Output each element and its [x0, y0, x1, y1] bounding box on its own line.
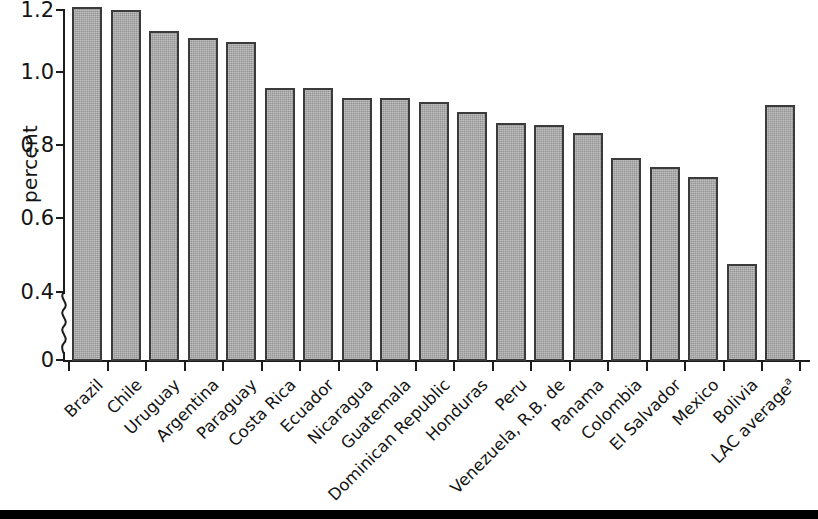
- bar-honduras: [457, 112, 487, 361]
- bar-brazil: [72, 7, 102, 362]
- y-tick-label-0: 0: [0, 350, 54, 371]
- x-tick-mark: [569, 362, 571, 371]
- x-label-brazil: Brazil: [94, 376, 107, 389]
- x-label-uruguay: Uruguay: [171, 376, 184, 389]
- x-label-chile: Chile: [133, 376, 146, 389]
- bar-mexico: [688, 177, 718, 361]
- x-tick-mark: [646, 362, 648, 371]
- x-tick-mark: [184, 362, 186, 371]
- x-label-dominican-republic: Dominican Republic: [441, 376, 454, 389]
- y-tick-label-0.4: 0.4: [0, 282, 54, 303]
- y-tick-label-0.8: 0.8: [0, 135, 54, 156]
- bar-guatemala: [380, 98, 410, 361]
- y-tick-mark-0.4: [56, 291, 65, 293]
- bar-nicaragua: [342, 98, 372, 361]
- x-label-venezuela-r-b-de: Venezuela, R.B. de: [556, 376, 569, 389]
- x-label-lac-average: LAC averagea: [787, 376, 800, 389]
- x-tick-mark: [222, 362, 224, 371]
- x-label-argentina: Argentina: [210, 376, 223, 389]
- x-tick-mark: [761, 362, 763, 371]
- x-label-paraguay: Paraguay: [248, 376, 261, 389]
- x-tick-mark: [299, 362, 301, 371]
- y-tick-label-1.0: 1.0: [0, 62, 54, 83]
- y-tick-mark-1.2: [56, 9, 65, 11]
- x-label-ecuador: Ecuador: [325, 376, 338, 389]
- bar-lac-average: [765, 105, 795, 361]
- y-tick-mark-0.6: [56, 217, 65, 219]
- x-tick-mark: [723, 362, 725, 371]
- bar-chart: percent 1.2 1.0 0.8 0.6 0.4 0 BrazilChil…: [0, 0, 818, 519]
- x-tick-mark: [145, 362, 147, 371]
- x-tick-mark: [261, 362, 263, 371]
- x-tick-mark: [338, 362, 340, 371]
- bar-venezuela-r-b-de: [534, 125, 564, 361]
- x-label-mexico: Mexico: [710, 376, 723, 389]
- bar-colombia: [611, 158, 641, 361]
- x-tick-mark: [607, 362, 609, 371]
- x-tick-mark: [107, 362, 109, 371]
- bar-panama: [573, 133, 603, 361]
- x-label-honduras: Honduras: [479, 376, 492, 389]
- x-tick-mark: [492, 362, 494, 371]
- bar-uruguay: [149, 31, 179, 361]
- x-tick-mark: [415, 362, 417, 371]
- x-label-panama: Panama: [595, 376, 608, 389]
- bar-costa-rica: [265, 88, 295, 362]
- x-label-el-salvador: El Salvador: [672, 376, 685, 389]
- bar-dominican-republic: [419, 102, 449, 361]
- x-label-colombia: Colombia: [633, 376, 646, 389]
- x-label-costa-rica: Costa Rica: [287, 376, 300, 389]
- y-tick-label-1.2: 1.2: [0, 0, 54, 21]
- bar-chile: [111, 10, 141, 361]
- x-tick-mark: [453, 362, 455, 371]
- x-label-nicaragua: Nicaragua: [364, 376, 377, 389]
- bar-el-salvador: [650, 167, 680, 361]
- x-tick-mark: [799, 362, 801, 371]
- y-tick-mark-0.8: [56, 144, 65, 146]
- x-label-guatemala: Guatemala: [402, 376, 415, 389]
- x-tick-mark: [684, 362, 686, 371]
- x-tick-mark: [68, 362, 70, 371]
- y-tick-label-0.6: 0.6: [0, 208, 54, 229]
- y-axis-spine-upper: [63, 10, 65, 294]
- bar-bolivia: [727, 264, 757, 361]
- x-tick-mark: [376, 362, 378, 371]
- x-tick-mark: [530, 362, 532, 371]
- bar-ecuador: [303, 88, 333, 362]
- x-label-peru: Peru: [518, 376, 531, 389]
- bar-peru: [496, 123, 526, 361]
- bar-paraguay: [226, 42, 256, 361]
- bar-argentina: [188, 38, 218, 361]
- y-tick-mark-1.0: [56, 71, 65, 73]
- page-edge-left: [0, 0, 4, 519]
- page-bottom-edge: [0, 510, 818, 519]
- x-label-bolivia: Bolivia: [749, 376, 762, 389]
